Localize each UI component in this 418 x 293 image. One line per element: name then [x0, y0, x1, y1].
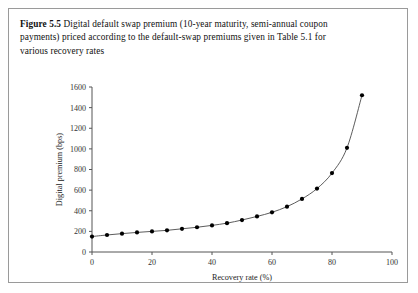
data-point	[240, 218, 244, 222]
x-axis-title: Recovery rate (%)	[212, 273, 272, 282]
y-tick-label: 1000	[70, 145, 86, 154]
figure-caption: Figure 5.5 Digital default swap premium …	[20, 18, 330, 58]
y-tick-label: 600	[74, 186, 86, 195]
figure-label: Figure 5.5	[20, 19, 61, 29]
y-tick-label: 1600	[70, 83, 86, 92]
x-axis: 020406080100	[90, 252, 398, 267]
data-point	[210, 223, 214, 227]
y-axis-title: Digital premium (bps)	[55, 133, 64, 206]
x-tick-label: 60	[268, 258, 276, 267]
data-point	[270, 210, 274, 214]
y-tick-label: 0	[82, 248, 86, 257]
y-tick-label: 200	[74, 227, 86, 236]
data-point	[135, 230, 139, 234]
data-point	[300, 197, 304, 201]
chart-plot-area: 02004006008001000120014001600 0204060801…	[9, 75, 409, 283]
x-tick-label: 20	[148, 258, 156, 267]
data-point	[195, 225, 199, 229]
line-chart: 02004006008001000120014001600 0204060801…	[9, 75, 409, 283]
y-tick-label: 800	[74, 165, 86, 174]
figure-caption-text: Digital default swap premium (10-year ma…	[20, 19, 328, 56]
data-point	[180, 227, 184, 231]
x-tick-label: 80	[328, 258, 336, 267]
data-point	[285, 205, 289, 209]
data-point	[150, 229, 154, 233]
data-point	[315, 186, 319, 190]
x-tick-label: 100	[386, 258, 398, 267]
data-point	[105, 233, 109, 237]
data-point	[360, 93, 364, 97]
y-tick-label: 1400	[70, 104, 86, 113]
data-point	[120, 232, 124, 236]
series-line-digital-premium	[92, 95, 362, 236]
data-point	[90, 234, 94, 238]
data-point	[255, 214, 259, 218]
x-tick-label: 0	[90, 258, 94, 267]
y-tick-label: 400	[74, 207, 86, 216]
figure-frame: Figure 5.5 Digital default swap premium …	[8, 8, 408, 283]
y-axis: 02004006008001000120014001600	[70, 83, 92, 257]
data-point	[165, 228, 169, 232]
y-tick-label: 1200	[70, 124, 86, 133]
x-tick-label: 40	[208, 258, 216, 267]
data-point	[345, 146, 349, 150]
series-markers	[90, 93, 364, 238]
data-point	[225, 221, 229, 225]
data-point	[330, 171, 334, 175]
